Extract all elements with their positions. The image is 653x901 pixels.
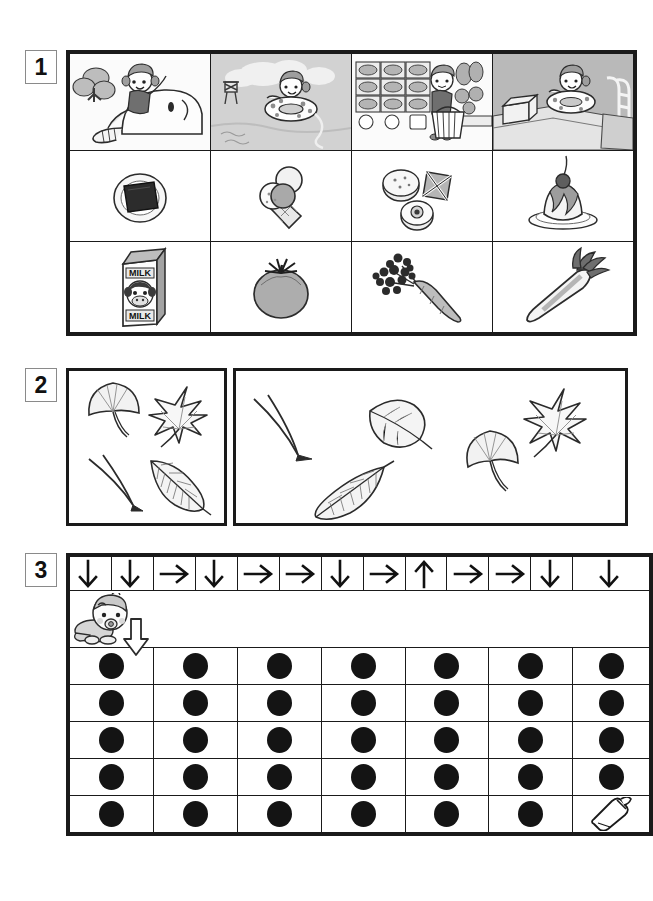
maze-goal-cell[interactable] — [573, 796, 650, 833]
arrow-cell-1-down[interactable] — [70, 557, 112, 591]
maze-dot-cell[interactable] — [153, 685, 237, 722]
cell-carrot[interactable] — [352, 242, 493, 333]
maze-dot-cell[interactable] — [489, 796, 573, 833]
dot-marker — [183, 727, 208, 753]
arrow-down-icon — [116, 558, 148, 590]
maze-dot-cell[interactable] — [237, 759, 321, 796]
serrated-leaf-icon — [151, 461, 211, 515]
maple-leaf-icon — [524, 389, 586, 457]
arrow-cell-4-down[interactable] — [195, 557, 237, 591]
arrow-down-icon — [595, 558, 627, 590]
arrow-cell-2-down[interactable] — [111, 557, 153, 591]
section-1: 1 — [25, 50, 637, 336]
dot-marker — [434, 653, 459, 679]
maze-dot-cell[interactable] — [153, 796, 237, 833]
arrow-cell-9-up[interactable] — [405, 557, 447, 591]
arrow-cell-13-down[interactable] — [573, 557, 650, 591]
maze-dot-cell[interactable] — [405, 685, 489, 722]
cell-swimming-pool[interactable] — [493, 54, 634, 151]
section-3: 3 — [25, 553, 653, 836]
maze-dot-cell[interactable] — [321, 648, 405, 685]
dot-marker — [434, 764, 459, 790]
maze-dot-cell[interactable] — [405, 722, 489, 759]
dot-marker — [434, 801, 459, 827]
dot-marker — [183, 764, 208, 790]
white-down-arrow-icon — [122, 617, 150, 657]
sea-swimming-scene — [211, 54, 351, 150]
leaf-answer-box[interactable] — [233, 368, 628, 526]
cell-sushi[interactable] — [352, 151, 493, 242]
maze-dot-cell[interactable] — [405, 648, 489, 685]
cell-supermarket[interactable] — [352, 54, 493, 151]
arrow-cell-10-right[interactable] — [447, 557, 489, 591]
dot-marker — [518, 764, 543, 790]
maze-dot-cell[interactable] — [321, 722, 405, 759]
scene-row — [70, 54, 634, 151]
arrow-cell-11-right[interactable] — [489, 557, 531, 591]
maze-dot-cell[interactable] — [70, 685, 154, 722]
maze-dot-cell[interactable] — [237, 648, 321, 685]
arrow-cell-5-right[interactable] — [237, 557, 279, 591]
maze-dot-cell[interactable] — [153, 759, 237, 796]
maze-dot-cell[interactable] — [237, 796, 321, 833]
arrow-right-icon — [242, 558, 274, 590]
maze-dot-cell[interactable] — [489, 759, 573, 796]
dot-marker — [267, 801, 292, 827]
cell-milk-carton[interactable]: MILK MILK — [70, 242, 211, 333]
park-slide-scene — [70, 54, 210, 150]
ginkgo-leaf-icon — [89, 383, 139, 437]
dot-grid-row — [70, 722, 650, 759]
maze-dot-cell[interactable] — [70, 722, 154, 759]
arrow-cell-6-right[interactable] — [279, 557, 321, 591]
dot-grid-row — [70, 648, 650, 685]
maze-dot-cell[interactable] — [573, 648, 650, 685]
baby-start-cell[interactable] — [70, 591, 650, 648]
worksheet-page: 1 — [0, 0, 653, 901]
dot-marker — [518, 801, 543, 827]
maze-dot-cell[interactable] — [573, 685, 650, 722]
maze-dot-cell[interactable] — [321, 759, 405, 796]
maze-dot-cell[interactable] — [153, 722, 237, 759]
svg-text:MILK: MILK — [129, 311, 151, 321]
cell-park-slide[interactable] — [70, 54, 211, 151]
oval-leaf-icon — [370, 400, 432, 449]
maze-dot-cell[interactable] — [405, 796, 489, 833]
cell-tomato[interactable] — [211, 242, 352, 333]
maze-dot-cell[interactable] — [405, 759, 489, 796]
maze-dot-cell[interactable] — [237, 685, 321, 722]
cell-daikon[interactable] — [493, 242, 634, 333]
dot-marker — [99, 727, 124, 753]
dot-marker — [518, 727, 543, 753]
cell-sea-swimming[interactable] — [211, 54, 352, 151]
milk-carton-icon: MILK MILK — [95, 244, 185, 330]
section-2-badge: 2 — [25, 368, 57, 402]
maze-dot-cell[interactable] — [573, 722, 650, 759]
dot-marker — [599, 690, 624, 716]
arrow-up-icon — [410, 558, 442, 590]
maze-dot-cell[interactable] — [237, 722, 321, 759]
arrow-down-icon — [536, 558, 568, 590]
arrow-cell-8-right[interactable] — [363, 557, 405, 591]
maze-dot-cell[interactable] — [573, 759, 650, 796]
section-1-badge: 1 — [25, 50, 57, 84]
maze-dot-cell[interactable] — [489, 722, 573, 759]
baby-bottle-icon — [573, 797, 649, 831]
cell-nori-rice[interactable] — [70, 151, 211, 242]
leaf-sample-box[interactable] — [66, 368, 227, 526]
cell-ice-cream[interactable] — [211, 151, 352, 242]
dot-marker — [99, 690, 124, 716]
arrow-cell-12-down[interactable] — [531, 557, 573, 591]
dot-marker — [599, 727, 624, 753]
arrow-cell-7-down[interactable] — [321, 557, 363, 591]
arrow-cell-3-right[interactable] — [153, 557, 195, 591]
arrow-maze — [66, 553, 653, 836]
pudding-icon — [508, 154, 618, 238]
maze-dot-cell[interactable] — [70, 796, 154, 833]
maze-dot-cell[interactable] — [153, 648, 237, 685]
maze-dot-cell[interactable] — [321, 796, 405, 833]
maze-dot-cell[interactable] — [489, 685, 573, 722]
cell-pudding[interactable] — [493, 151, 634, 242]
maze-dot-cell[interactable] — [489, 648, 573, 685]
maze-dot-cell[interactable] — [321, 685, 405, 722]
maze-dot-cell[interactable] — [70, 759, 154, 796]
